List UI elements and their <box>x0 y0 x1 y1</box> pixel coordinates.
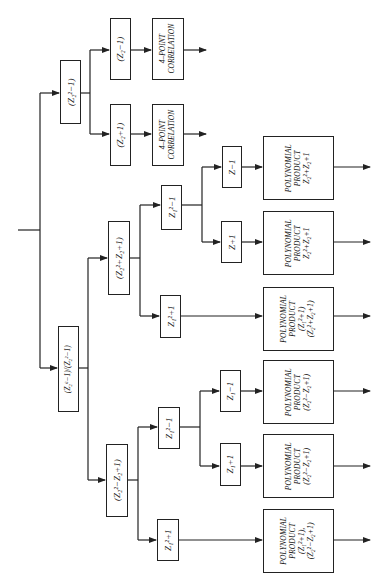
poly-expr-2: (Z₂²+Z₂+1) <box>307 295 316 343</box>
polynomial-product-box: POLYNOMIAL PRODUCT Z₂²+Z₂+1 <box>263 211 334 275</box>
node-z2-plus-1: (Z₂+1) <box>110 104 131 166</box>
node-label: Z₁²+1 <box>165 306 175 327</box>
node-z1-squared-plus-1: Z₁²+1 <box>160 295 181 338</box>
node-z2-minus-1: (Z₂−1) <box>110 18 131 80</box>
poly-expr: (Z₂²−Z₂+1) <box>303 368 312 416</box>
node-label: (Z₂⁶−1)/(Z₂²−1) <box>64 345 73 393</box>
node-label: Z+1 <box>226 234 236 250</box>
diagram-canvas: (Z₂²−1) (Z₂⁶−1)/(Z₂²−1) (Z₂−1) (Z₂+1) 4–… <box>0 0 387 584</box>
node-label: (Z₂²−1) <box>65 78 75 105</box>
node-label: (Z₂+1) <box>115 123 125 148</box>
corr-line2: CORRELATION <box>168 24 177 74</box>
polynomial-product-box: POLYNOMIAL PRODUCT (Z₂²−Z₂+1) <box>263 360 334 424</box>
node-z-minus-1: Z−1 <box>222 146 242 188</box>
node-z1-squared-minus-1: Z₁²−1 <box>161 185 182 230</box>
node-label: Z₁²−1 <box>166 197 176 218</box>
node-z1-squared-plus-1: Z₁²+1 <box>157 519 179 561</box>
node-label: Z₁+1 <box>225 455 235 474</box>
node-z2-squared-minus-z2-plus-1: (Z₂²−Z₂+1) <box>106 444 128 517</box>
node-z1-minus-1: Z₁−1 <box>220 370 241 412</box>
node-label: Z−1 <box>227 159 237 175</box>
node-label: (Z₂−1) <box>115 37 125 62</box>
poly-expr: Z₂²+Z₂+1 <box>303 144 312 192</box>
node-z1-plus-1: Z₁+1 <box>220 443 241 486</box>
node-label: Z₁²+1 <box>163 529 173 550</box>
node-z1-squared-minus-1: Z₁²−1 <box>158 407 180 449</box>
polynomial-product-box: POLYNOMIAL PRODUCT (Z₁²+1), (Z₂²−Z₂+1) <box>263 509 334 573</box>
poly-expr: Z₂²+Z₂+1 <box>303 219 312 267</box>
polynomial-product-box: POLYNOMIAL PRODUCT (Z₂²−Z₂+1) <box>263 434 334 498</box>
polynomial-product-box: POLYNOMIAL PRODUCT (Z₁²+1) (Z₂²+Z₂+1) <box>263 287 334 351</box>
poly-expr: (Z₂²−Z₂+1) <box>303 442 312 490</box>
node-label: Z₁²−1 <box>164 417 174 438</box>
node-label: (Z₂²−Z₂+1) <box>112 460 122 502</box>
node-label: Z₁−1 <box>225 382 235 401</box>
node-z-plus-1: Z+1 <box>221 221 242 263</box>
node-z2-squared-plus-z2-plus-1: (Z₂²+Z₂+1) <box>108 221 130 295</box>
four-point-correlation-box: 4–POINT CORRELATION <box>152 18 184 80</box>
corr-line2: CORRELATION <box>168 110 177 160</box>
four-point-correlation-box: 4–POINT CORRELATION <box>152 104 184 166</box>
node-z2-squared-minus-1: (Z₂²−1) <box>60 60 81 124</box>
polynomial-product-box: POLYNOMIAL PRODUCT Z₂²+Z₂+1 <box>263 136 334 200</box>
node-z2-sixth-minus-1-over-z2-squared-minus-1: (Z₂⁶−1)/(Z₂²−1) <box>58 326 79 412</box>
node-label: (Z₂²+Z₂+1) <box>114 237 124 279</box>
poly-expr-2: (Z₂²−Z₂+1) <box>307 517 316 565</box>
